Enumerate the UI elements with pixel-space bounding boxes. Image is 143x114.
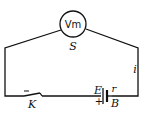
battery-name-label: B [110, 97, 119, 110]
circuit-diagram: Vm S i K E r + B [0, 0, 143, 114]
switch-blade [24, 93, 40, 96]
meter-name-label: S [69, 40, 77, 53]
current-label: i [133, 63, 137, 76]
plus-sign: + [95, 96, 103, 107]
switch-label: K [27, 98, 37, 111]
resistance-label: r [112, 83, 118, 94]
left-wire [5, 30, 61, 96]
voltmeter-label: Vm [65, 19, 82, 30]
